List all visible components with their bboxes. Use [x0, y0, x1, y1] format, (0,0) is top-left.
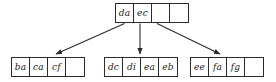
leaf-right-cell-3[interactable]	[245, 58, 263, 76]
btree-leaf-node-right[interactable]: ee fa fg	[190, 57, 264, 77]
leaf-middle-cell-3[interactable]: eb	[159, 58, 177, 76]
leaf-left-cell-1[interactable]: ca	[30, 58, 48, 76]
root-cell-3[interactable]	[170, 4, 188, 22]
leaf-middle-cell-0[interactable]: dc	[105, 58, 123, 76]
leaf-middle-cell-1[interactable]: di	[123, 58, 141, 76]
root-cell-2[interactable]	[152, 4, 170, 22]
btree-leaf-node-left[interactable]: ba ca cf	[11, 57, 85, 77]
leaf-left-cell-3[interactable]	[66, 58, 84, 76]
leaf-right-cell-1[interactable]: fa	[209, 58, 227, 76]
root-cell-0[interactable]: da	[116, 4, 134, 22]
leaf-left-cell-2[interactable]: cf	[48, 58, 66, 76]
leaf-right-cell-0[interactable]: ee	[191, 58, 209, 76]
root-cell-1[interactable]: ec	[134, 4, 152, 22]
btree-root-node[interactable]: da ec	[115, 3, 189, 23]
leaf-middle-cell-2[interactable]: ea	[141, 58, 159, 76]
edge-root-to-left-leaf	[56, 24, 125, 55]
leaf-right-cell-2[interactable]: fg	[227, 58, 245, 76]
btree-leaf-node-middle[interactable]: dc di ea eb	[104, 57, 178, 77]
edge-root-to-right-leaf	[157, 24, 220, 55]
leaf-left-cell-0[interactable]: ba	[12, 58, 30, 76]
btree-diagram: da ec ba ca cf dc di ea eb ee fa fg	[0, 0, 276, 82]
